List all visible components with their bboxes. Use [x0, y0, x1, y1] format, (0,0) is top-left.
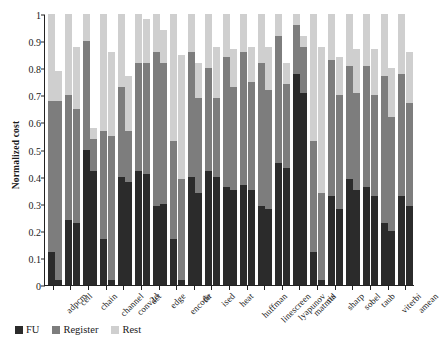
legend-item-fu: FU	[15, 324, 39, 335]
bar-segment-register	[223, 57, 230, 187]
bar-segment-register	[388, 117, 395, 231]
stacked-bar	[406, 52, 413, 285]
stacked-bar	[283, 63, 290, 285]
y-tick-label: 0.9	[29, 37, 42, 48]
bar-segment-fu	[118, 177, 125, 285]
bar-segment-register	[363, 66, 370, 188]
bar-segment-register	[213, 98, 220, 177]
bar-segment-register	[300, 47, 307, 93]
bar-segment-fu	[205, 171, 212, 285]
stacked-bar	[381, 14, 388, 285]
bar-segment-rest	[90, 128, 97, 139]
x-tick-mark	[194, 286, 195, 290]
bar-group	[344, 15, 362, 285]
bar-group	[274, 15, 292, 285]
bar-segment-register	[205, 68, 212, 171]
stacked-bar	[240, 14, 247, 285]
bar-segment-register	[398, 74, 405, 196]
bar-segment-fu	[188, 177, 195, 285]
bar-segment-rest	[265, 47, 272, 90]
bar-group	[256, 15, 274, 285]
bar-segment-rest	[205, 14, 212, 68]
bar-segment-register	[318, 193, 325, 280]
y-tick-label: 0.8	[29, 64, 42, 75]
y-tick-label: 0.1	[29, 253, 42, 264]
bar-group	[327, 15, 345, 285]
y-tick-label: 0.4	[29, 172, 42, 183]
bar-segment-fu	[170, 239, 177, 285]
stacked-bar	[73, 47, 80, 285]
bar-segment-fu	[153, 206, 160, 285]
bar-segment-register	[55, 101, 62, 280]
bar-segment-register	[240, 52, 247, 185]
legend-label: Register	[63, 324, 98, 335]
stacked-bar	[170, 14, 177, 285]
bar-segment-register	[65, 95, 72, 220]
bar-segment-rest	[213, 47, 220, 98]
bar-segment-rest	[283, 63, 290, 85]
x-tick-mark	[176, 286, 177, 290]
stacked-bar	[143, 19, 150, 285]
stacked-bar	[135, 14, 142, 285]
x-tick-mark	[335, 286, 336, 290]
bar-segment-register	[258, 63, 265, 207]
bar-segment-fu	[108, 280, 115, 285]
bar-segment-rest	[398, 14, 405, 74]
x-tick-mark	[317, 286, 318, 290]
bar-segment-register	[118, 87, 125, 176]
bar-segment-register	[195, 98, 202, 193]
bar-segment-fu	[125, 182, 132, 285]
bar-segment-rest	[363, 14, 370, 65]
stacked-bar	[188, 14, 195, 285]
bar-group	[186, 15, 204, 285]
y-tick-label: 0.2	[29, 226, 42, 237]
bar-segment-rest	[310, 14, 317, 141]
bar-segment-fu	[346, 179, 353, 285]
bar-segment-register	[83, 41, 90, 149]
bar-group	[379, 15, 397, 285]
stacked-bar	[55, 71, 62, 285]
bar-segment-rest	[293, 14, 300, 25]
stacked-bar	[48, 14, 55, 285]
bar-segment-fu	[195, 193, 202, 285]
stacked-bar	[310, 14, 317, 285]
bar-group	[239, 15, 257, 285]
bar-segment-fu	[293, 74, 300, 285]
stacked-bar	[258, 14, 265, 285]
bar-segment-register	[160, 63, 167, 204]
stacked-bar	[160, 30, 167, 285]
bar-segment-fu	[73, 223, 80, 285]
bar-segment-register	[143, 63, 150, 174]
x-tick-label: heat	[238, 291, 256, 309]
stacked-bar	[65, 14, 72, 285]
bar-segment-rest	[371, 49, 378, 95]
bar-segment-fu	[178, 280, 185, 285]
bar-group	[81, 15, 99, 285]
stacked-bar	[230, 49, 237, 285]
bar-segment-rest	[188, 14, 195, 52]
plot-area: 00.10.20.30.40.50.60.70.80.91	[44, 15, 414, 286]
bar-segment-register	[90, 139, 97, 172]
stacked-bar	[248, 47, 255, 285]
bar-segment-rest	[346, 14, 353, 65]
bar-segment-fu	[213, 177, 220, 285]
bar-segment-register	[310, 141, 317, 252]
bar-segment-fu	[135, 171, 142, 285]
x-tick-mark	[53, 286, 54, 290]
bar-segment-register	[381, 76, 388, 222]
x-tick-mark	[388, 286, 389, 290]
y-tick-label: 1	[36, 10, 41, 21]
bar-segment-register	[353, 93, 360, 191]
x-tick-mark	[211, 286, 212, 290]
x-tick-mark	[299, 286, 300, 290]
bar-segment-register	[346, 66, 353, 180]
bar-segment-register	[135, 63, 142, 171]
bar-group	[99, 15, 117, 285]
bar-segment-fu	[353, 190, 360, 285]
bar-segment-rest	[125, 76, 132, 130]
x-tick-mark	[123, 286, 124, 290]
stacked-bar	[318, 47, 325, 285]
bar-group	[397, 15, 415, 285]
stacked-bar	[205, 14, 212, 285]
stacked-bar	[195, 63, 202, 285]
